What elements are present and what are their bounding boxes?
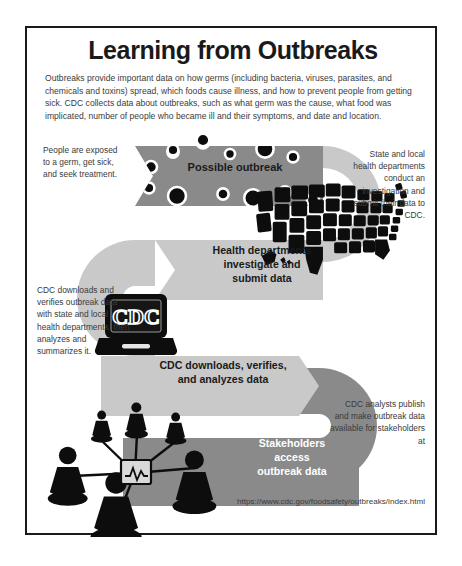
- band-3-label: CDC downloads, verifies, and analyzes da…: [123, 358, 323, 386]
- band-4-label-line2: access: [217, 450, 367, 464]
- band-4-label-line3: outbreak data: [217, 464, 367, 478]
- band-2-label-line3: submit data: [167, 271, 357, 285]
- band-2-label-line2: investigate and: [167, 257, 357, 271]
- band-1-label: Possible outbreak: [145, 161, 325, 173]
- infographic-page: Learning from Outbreaks Outbreaks provid…: [0, 0, 462, 566]
- central-data-node: [121, 460, 151, 484]
- caption-step-4: CDC analysts publish and make outbreak d…: [329, 398, 425, 447]
- band-3-label-line2: and analyzes data: [123, 372, 323, 386]
- caption-step-3: CDC downloads and verifies outbreak data…: [37, 284, 133, 357]
- caption-step-1: People are exposed to a germ, get sick, …: [43, 144, 125, 181]
- outbreaks-url-link[interactable]: https://www.cdc.gov/foodsafety/outbreaks…: [175, 496, 425, 507]
- band-2-label: Health departments investigate and submi…: [167, 243, 357, 285]
- caption-step-2: State and local health departments condu…: [349, 148, 425, 221]
- poster-frame: Learning from Outbreaks Outbreaks provid…: [25, 26, 437, 535]
- band-3-label-line1: CDC downloads, verifies,: [123, 358, 323, 372]
- band-2-label-line1: Health departments: [167, 243, 357, 257]
